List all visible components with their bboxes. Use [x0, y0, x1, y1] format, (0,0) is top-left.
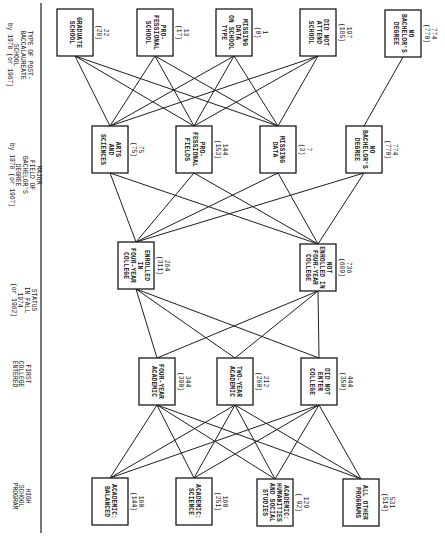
node-mf-missing: MISSINGDATA7(3): [260, 126, 312, 173]
node-label-line: AND: [107, 144, 114, 156]
node-mf-arts: ARTSANDSCIENCES75(75): [92, 126, 144, 173]
node-alt-count: (350): [339, 372, 346, 391]
node-count: 180: [137, 496, 144, 508]
level-label-line: by 1978 (or 1967): [8, 143, 15, 207]
node-alt-count: (770): [384, 140, 391, 159]
node-hs-balanced: ACADEMIC:BALANCED180(144): [92, 478, 144, 525]
level-label-line: PROGRAM: [11, 483, 18, 510]
node-count: 144: [221, 144, 228, 156]
edge-mf_nobach-to-pb_nobach: [364, 57, 403, 126]
node-pb-nobach: NOBACHELOR'SDEGREE774(770): [385, 10, 437, 57]
node-label-line: PRO-: [159, 25, 166, 41]
node-label-line: GRADUATE: [75, 17, 82, 48]
node-count: 1: [261, 31, 268, 35]
node-hs-other: ALL OTHERPROGRAMS531(514): [343, 479, 395, 526]
edge-mf_prof-to-pb_missing: [194, 56, 234, 126]
level-label-line: by 1978 (or 1967): [6, 23, 13, 87]
node-label-line: SCHOOL: [68, 21, 75, 44]
nodes-layer: ACADEMIC:BALANCED180(144)ACADEMIC:SCIENC…: [57, 9, 437, 526]
node-alt-count: (514): [381, 493, 388, 512]
node-label-line: ENROLLED: [143, 250, 150, 281]
edge-fc_none-to-st_enrolled: [136, 289, 319, 358]
node-alt-count: (185): [338, 23, 345, 42]
edge-fc_four-to-st_not: [157, 291, 318, 358]
node-pb-none: DID NOTATTENDSCHOOL197(185): [300, 9, 352, 56]
edge-mf_arts-to-pb_prof: [110, 56, 155, 126]
node-count: 212: [262, 376, 269, 388]
node-fc-none: DID NOTENTERCOLLEGE444(350): [301, 358, 353, 405]
node-label-line: NO: [368, 146, 375, 154]
level-label-line: ENTERED: [11, 361, 18, 388]
node-label-line: DATA: [234, 25, 241, 41]
edge-st_not-to-mf_nobach: [318, 173, 364, 244]
node-label-line: FESSIONAL: [191, 132, 198, 167]
node-alt-count: (390): [177, 372, 184, 391]
node-label-line: COLLEGE: [308, 368, 315, 395]
node-label-line: DEGREE: [392, 22, 399, 45]
node-label-line: FOUR-YEAR: [311, 250, 318, 285]
node-alt-count: ( 92): [295, 493, 302, 512]
node-label-line: SCIENCES: [99, 134, 106, 165]
node-label-line: ARTS: [114, 142, 121, 158]
node-label-line: ATTEND: [315, 21, 322, 44]
edge-st_not-to-mf_arts: [110, 173, 318, 244]
edge-hs_balanced-to-fc_two: [110, 405, 235, 478]
node-label-line: ACADEMIC: [150, 366, 157, 397]
edge-fc_two-to-st_enrolled: [136, 289, 235, 358]
node-label-line: DEGREE: [353, 138, 360, 161]
node-label-line: MISSING: [241, 19, 248, 46]
node-label-line: SCHOOL: [144, 21, 151, 44]
node-label-line: COLLEGE: [304, 254, 311, 281]
node-count: 736: [345, 262, 352, 274]
node-label-line: COLLEGE: [122, 252, 129, 279]
node-alt-count: (75): [130, 142, 137, 157]
node-label-line: DATA: [271, 142, 278, 158]
edge-mf_missing-to-pb_missing: [234, 56, 278, 126]
node-label-line: NOT: [325, 262, 332, 274]
edge-hs_other-to-fc_two: [235, 405, 361, 479]
node-pb-prof: PRO-FESSIONALSCHOOL13(17): [137, 9, 189, 56]
node-count: 774: [430, 28, 437, 40]
node-label-line: ENROLLED IN: [318, 246, 325, 289]
node-count: 129: [302, 497, 309, 509]
node-alt-count: (770): [423, 24, 430, 43]
node-count: 344: [184, 376, 191, 388]
node-label-line: SCIENCE: [187, 488, 194, 515]
node-label-line: FESSIONAL: [152, 15, 159, 50]
edge-hs_humanities-to-fc_two: [235, 405, 275, 479]
node-alt-count: (260): [255, 372, 262, 391]
edge-mf_prof-to-pb_prof: [155, 56, 194, 126]
node-label-line: ACADEMIC:: [110, 484, 117, 519]
node-label-line: DID NOT: [322, 19, 329, 46]
node-alt-count: (0): [254, 27, 261, 38]
edge-st_enrolled-to-mf_missing: [136, 173, 278, 242]
node-label-line: DID NOT: [323, 368, 330, 395]
node-label-line: AND SOCIAL: [268, 483, 275, 522]
level-labels: HIGHSCHOOLPROGRAMFIRSTCOLLEGEENTEREDSTAT…: [6, 23, 42, 510]
edge-st_enrolled-to-mf_arts: [110, 173, 136, 242]
node-label-line: BALANCED: [103, 486, 110, 517]
node-label-line: MISSING: [278, 136, 285, 163]
node-fc-four: FOUR-YEARACADEMIC344(390): [139, 358, 191, 405]
node-count: 197: [345, 27, 352, 39]
node-label-line: NO: [407, 30, 414, 38]
node-count: 13: [182, 29, 189, 37]
node-label-line: STUDIES: [261, 489, 268, 516]
edge-mf_missing-to-pb_none: [278, 56, 318, 126]
node-label-line: ACADEMIC: [228, 366, 235, 397]
node-alt-count: (144): [130, 492, 137, 511]
node-count: 160: [221, 496, 228, 508]
level-label-post-bacc: TYPE OF POST-BACCALAUREATESCHOOLby 1978 …: [6, 23, 33, 87]
node-hs-science: ACADEMIC:SCIENCE160(251): [176, 478, 228, 525]
node-fc-two: TWO-YEARACADEMIC212(260): [217, 358, 269, 405]
node-st-not: NOTENROLLED INFOUR-YEARCOLLEGE736(689): [300, 244, 352, 291]
node-label-line: ENTER: [316, 372, 323, 392]
edge-st_enrolled-to-mf_prof: [136, 173, 194, 242]
level-label-line: BACCALAUREATE: [19, 30, 26, 79]
node-hs-humanities: ACADEMIC:HUMANITIESAND SOCIALSTUDIES129(…: [257, 479, 309, 526]
edge-hs_other-to-fc_none: [319, 405, 361, 479]
edge-hs_balanced-to-fc_four: [110, 405, 157, 478]
node-label-line: SCHOOL: [307, 21, 314, 44]
node-label-line: ACADEMIC:: [282, 485, 289, 520]
edge-hs_other-to-fc_four: [157, 405, 361, 479]
